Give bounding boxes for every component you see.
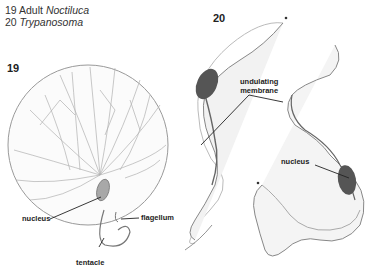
label-undulating-membrane: undulating membrane	[240, 78, 278, 95]
label-tentacle: tentacle	[76, 259, 104, 268]
label-flagellum: flagellum	[141, 214, 174, 223]
illustration	[0, 0, 383, 280]
label-nucleus-20: nucleus	[281, 158, 309, 167]
label-nucleus-19: nucleus	[22, 215, 50, 224]
figure-number-19: 19	[7, 62, 19, 74]
figure-number-20: 20	[213, 12, 225, 24]
